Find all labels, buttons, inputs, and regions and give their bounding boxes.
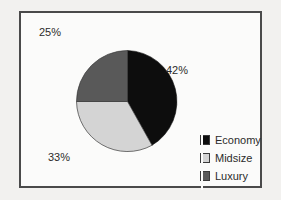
pie-slice-luxury[interactable] <box>77 51 128 102</box>
legend-item-economy[interactable]: Economy <box>200 131 278 149</box>
legend-swatch-inner-midsize <box>201 153 203 172</box>
pie-svg <box>76 50 179 153</box>
legend-swatch-inner-economy <box>201 135 203 154</box>
legend-swatch-inner-luxury <box>201 171 203 190</box>
pie-graphic <box>76 50 179 153</box>
pie-chart-figure: Economy Midsize Luxury 42% 25% 33% <box>0 0 281 200</box>
legend-swatch-economy <box>200 135 210 145</box>
data-label-midsize: 33% <box>48 151 70 163</box>
legend-label-luxury: Luxury <box>215 170 248 182</box>
legend-swatch-midsize <box>200 153 210 163</box>
data-label-luxury: 25% <box>39 26 61 38</box>
data-label-economy: 42% <box>166 64 188 76</box>
chart-legend: Economy Midsize Luxury <box>200 131 278 185</box>
legend-item-midsize[interactable]: Midsize <box>200 149 278 167</box>
legend-swatch-luxury <box>200 171 210 181</box>
legend-label-midsize: Midsize <box>215 152 252 164</box>
legend-item-luxury[interactable]: Luxury <box>200 167 278 185</box>
legend-label-economy: Economy <box>215 134 261 146</box>
